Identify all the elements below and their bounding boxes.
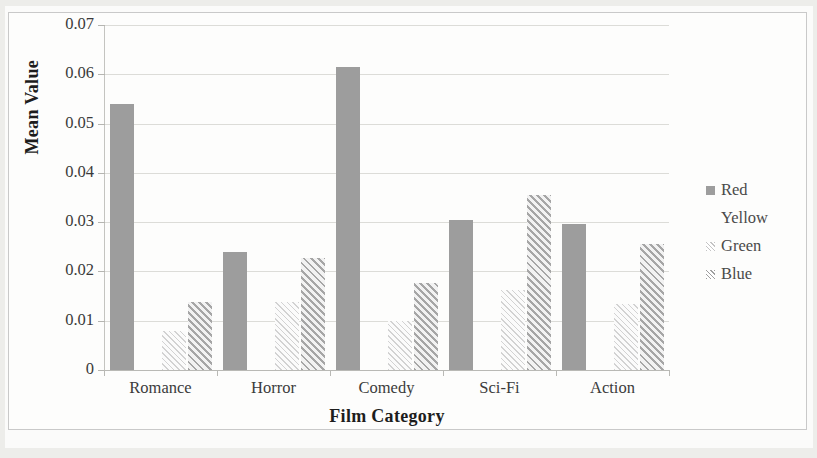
scan-edge-left: [0, 0, 5, 458]
x-tick-mark: [669, 370, 670, 376]
legend-item-green[interactable]: Green: [706, 232, 806, 260]
y-tick-label: 0.05: [65, 113, 94, 133]
legend-swatch-yellow-icon: [706, 214, 715, 223]
x-tick-mark: [556, 370, 557, 376]
bar-red-comedy: [336, 67, 360, 370]
x-tick-mark: [330, 370, 331, 376]
bar-blue-action: [640, 244, 664, 370]
legend-item-red[interactable]: Red: [706, 176, 806, 204]
x-tick-label: Comedy: [330, 378, 443, 398]
bar-green-romance: [162, 331, 186, 370]
x-tick-label: Action: [556, 378, 669, 398]
chart-figure: 00.010.020.030.040.050.060.07 RomanceHor…: [0, 0, 817, 458]
bar-red-romance: [110, 104, 134, 370]
y-tick-label: 0.07: [65, 14, 94, 34]
scan-edge-bottom: [0, 448, 817, 458]
legend-swatch-blue-icon: [706, 270, 715, 279]
bar-green-horror: [275, 302, 299, 370]
y-tick-label: 0.04: [65, 162, 94, 182]
bar-blue-sci-fi: [527, 195, 551, 370]
y-tick-label: 0.02: [65, 260, 94, 280]
bar-green-comedy: [388, 321, 412, 370]
x-tick-label: Horror: [217, 378, 330, 398]
scan-edge-right: [813, 0, 817, 458]
x-tick-mark: [443, 370, 444, 376]
chart-legend: RedYellowGreenBlue: [706, 176, 806, 288]
bar-red-sci-fi: [449, 220, 473, 370]
legend-label: Blue: [721, 264, 752, 284]
x-axis-line: [104, 370, 670, 371]
x-tick-label: Sci-Fi: [443, 378, 556, 398]
y-tick-label: 0.01: [65, 310, 94, 330]
plot-area: [104, 25, 669, 370]
scan-edge-top: [0, 0, 817, 6]
y-tick-label: 0: [86, 359, 94, 379]
legend-label: Green: [721, 236, 761, 256]
bar-red-action: [562, 224, 586, 370]
y-tick-label: 0.03: [65, 211, 94, 231]
legend-label: Yellow: [721, 208, 768, 228]
x-tick-label: Romance: [104, 378, 217, 398]
bar-blue-romance: [188, 302, 212, 371]
bar-green-action: [614, 304, 638, 370]
y-axis-title: Mean Value: [22, 127, 43, 155]
legend-item-blue[interactable]: Blue: [706, 260, 806, 288]
y-tick-label: 0.06: [65, 63, 94, 83]
x-tick-mark: [104, 370, 105, 376]
legend-swatch-red-icon: [706, 186, 715, 195]
bar-green-sci-fi: [501, 290, 525, 370]
bar-blue-horror: [301, 258, 325, 370]
bar-red-horror: [223, 252, 247, 370]
bar-blue-comedy: [414, 283, 438, 370]
legend-label: Red: [721, 180, 748, 200]
x-axis-title: Film Category: [104, 406, 670, 427]
legend-item-yellow[interactable]: Yellow: [706, 204, 806, 232]
legend-swatch-green-icon: [706, 242, 715, 251]
x-tick-mark: [217, 370, 218, 376]
